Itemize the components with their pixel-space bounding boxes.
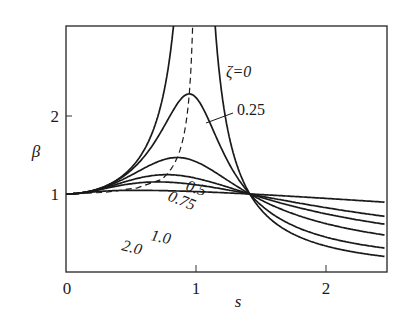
curve-zeta-0 (66, 0, 193, 194)
curve-label-0-25: 0.25 (237, 101, 265, 118)
transmissibility-chart: 0 1 2 1 2 s β ζ=0 0.25 0.5 0.75 1.0 2.0 (0, 0, 410, 322)
curve-label-2-0: 2.0 (120, 236, 144, 257)
x-tick-label-2: 2 (322, 279, 331, 298)
curve-zeta-0-5 (66, 158, 385, 235)
curve-zeta-0 (199, 0, 385, 256)
x-axis-label: s (235, 292, 242, 311)
y-axis-label: β (31, 142, 41, 161)
x-tick-label-1: 1 (192, 279, 201, 298)
curve-label-zeta-0: ζ=0 (226, 63, 251, 81)
y-tick-label-2: 2 (51, 107, 60, 126)
curve-label-1-0: 1.0 (149, 226, 172, 247)
y-tick-label-1: 1 (51, 185, 60, 204)
curve-zeta-2 (66, 190, 385, 202)
leader-line-0-25 (206, 113, 233, 123)
x-tick-label-0: 0 (63, 279, 72, 298)
curve-peak-locus (66, 0, 196, 194)
